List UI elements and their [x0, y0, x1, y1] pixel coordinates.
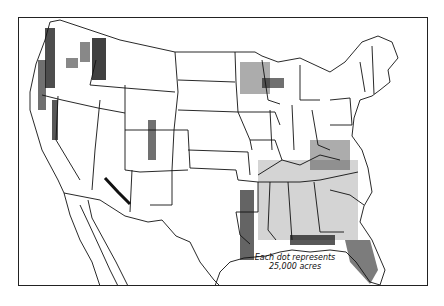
us-dot-density-map: Each dot represents 25,000 acres: [0, 0, 444, 306]
legend-line-2: 25,000 acres: [245, 262, 345, 271]
map-frame: [18, 17, 428, 286]
map-legend: Each dot represents 25,000 acres: [245, 253, 345, 271]
legend-line-1: Each dot represents: [245, 253, 345, 262]
